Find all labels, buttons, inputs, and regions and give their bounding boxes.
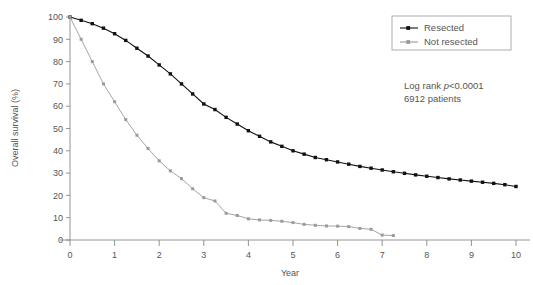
data-point-marker [91, 22, 94, 25]
y-tick-label: 90 [53, 35, 63, 45]
data-point-marker [269, 219, 272, 222]
data-point-marker [124, 39, 127, 42]
data-point-marker [336, 160, 339, 163]
x-tick-label: 1 [112, 250, 117, 260]
data-point-marker [481, 181, 484, 184]
y-tick-label: 40 [53, 146, 63, 156]
data-point-marker [325, 158, 328, 161]
x-tick-label: 6 [335, 250, 340, 260]
data-point-marker [280, 145, 283, 148]
data-point-marker [169, 72, 172, 75]
data-point-marker [135, 134, 138, 137]
y-tick-label: 80 [53, 57, 63, 67]
x-tick-label: 4 [246, 250, 251, 260]
data-point-marker [180, 82, 183, 85]
data-point-marker [358, 165, 361, 168]
annotation-line-2: 6912 patients [404, 93, 461, 104]
legend-marker-0 [406, 26, 410, 30]
data-point-marker [392, 170, 395, 173]
data-point-marker [113, 32, 116, 35]
data-point-marker [247, 217, 250, 220]
y-tick-label: 30 [53, 168, 63, 178]
data-point-marker [280, 220, 283, 223]
chart-annotation: Log rank p<0.0001 6912 patients [404, 80, 484, 104]
data-point-marker [236, 214, 239, 217]
data-point-marker [213, 108, 216, 111]
data-point-marker [314, 156, 317, 159]
x-axis: 012345678910 [60, 240, 530, 260]
data-point-marker [91, 60, 94, 63]
data-point-marker [514, 185, 517, 188]
data-point-marker [470, 179, 473, 182]
x-tick-label: 0 [67, 250, 72, 260]
data-point-marker [202, 102, 205, 105]
data-point-marker [202, 196, 205, 199]
data-point-marker [79, 19, 82, 22]
data-point-marker [225, 212, 228, 215]
x-tick-label: 8 [424, 250, 429, 260]
data-point-marker [69, 16, 72, 19]
y-axis: 0102030405060708090100 [48, 12, 70, 245]
chart-legend: ResectedNot resected [392, 16, 511, 50]
data-point-marker [314, 224, 317, 227]
annotation-logrank-prefix: Log rank [404, 80, 444, 91]
data-point-marker [503, 183, 506, 186]
data-point-marker [258, 218, 261, 221]
data-point-marker [358, 227, 361, 230]
y-tick-label: 60 [53, 101, 63, 111]
data-point-marker [213, 199, 216, 202]
data-point-marker [102, 26, 105, 29]
data-point-marker [269, 140, 272, 143]
y-tick-label: 70 [53, 79, 63, 89]
series-not-resected [69, 16, 395, 238]
data-point-marker [447, 177, 450, 180]
series-line [70, 17, 393, 236]
data-point-marker [158, 159, 161, 162]
data-point-marker [258, 135, 261, 138]
x-tick-label: 9 [469, 250, 474, 260]
data-point-marker [302, 152, 305, 155]
data-point-marker [325, 224, 328, 227]
data-point-marker [369, 166, 372, 169]
x-tick-label: 7 [380, 250, 385, 260]
data-point-marker [347, 225, 350, 228]
data-point-marker [102, 82, 105, 85]
data-point-marker [291, 149, 294, 152]
data-point-marker [191, 187, 194, 190]
data-point-marker [80, 38, 83, 41]
data-point-marker [336, 225, 339, 228]
data-point-marker [414, 173, 417, 176]
data-point-marker [224, 116, 227, 119]
y-tick-label: 50 [53, 124, 63, 134]
data-point-marker [303, 223, 306, 226]
y-tick-label: 20 [53, 191, 63, 201]
data-point-marker [247, 129, 250, 132]
data-point-marker [180, 177, 183, 180]
legend-marker-1 [406, 40, 410, 44]
data-point-marker [492, 182, 495, 185]
annotation-pvalue: <0.0001 [449, 80, 484, 91]
x-tick-label: 3 [201, 250, 206, 260]
x-tick-label: 2 [157, 250, 162, 260]
data-point-marker [459, 178, 462, 181]
data-point-marker [135, 47, 138, 50]
y-tick-label: 10 [53, 213, 63, 223]
annotation-line-1: Log rank p<0.0001 [404, 80, 484, 91]
survival-chart: 0102030405060708090100 012345678910 Over… [0, 0, 533, 285]
data-point-marker [403, 172, 406, 175]
data-point-marker [236, 122, 239, 125]
y-tick-label: 100 [48, 12, 63, 22]
data-point-marker [191, 92, 194, 95]
legend-label-not-resected: Not resected [424, 36, 478, 47]
data-point-marker [147, 147, 150, 150]
data-point-marker [158, 63, 161, 66]
data-point-marker [392, 234, 395, 237]
data-point-marker [146, 54, 149, 57]
data-point-marker [292, 221, 295, 224]
legend-label-resected: Resected [424, 22, 464, 33]
data-point-marker [113, 100, 116, 103]
data-point-marker [370, 228, 373, 231]
data-point-marker [381, 168, 384, 171]
data-point-marker [347, 162, 350, 165]
x-axis-title: Year [281, 268, 299, 278]
